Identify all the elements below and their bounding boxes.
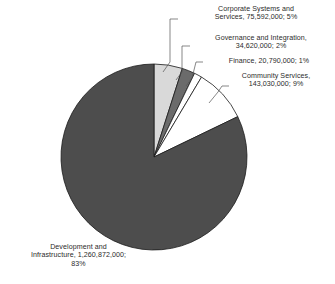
pie-slices [61, 64, 247, 250]
slice-label-corporate-systems-and-services: Corporate Systems and Services, 75,592,0… [182, 5, 330, 22]
leader-line-corporate [163, 19, 178, 72]
slice-label-community-services: Community Services, 143,030,000; 9% [218, 72, 334, 89]
slice-label-development-and-infrastructure: Development and Infrastructure, 1,260,87… [6, 243, 151, 268]
slice-label-governance-and-integration: Governance and Integration, 34,620,000; … [190, 34, 332, 51]
slice-label-finance: Finance, 20,790,000; 1% [205, 57, 333, 65]
pie-chart: Corporate Systems and Services, 75,592,0… [0, 0, 335, 284]
